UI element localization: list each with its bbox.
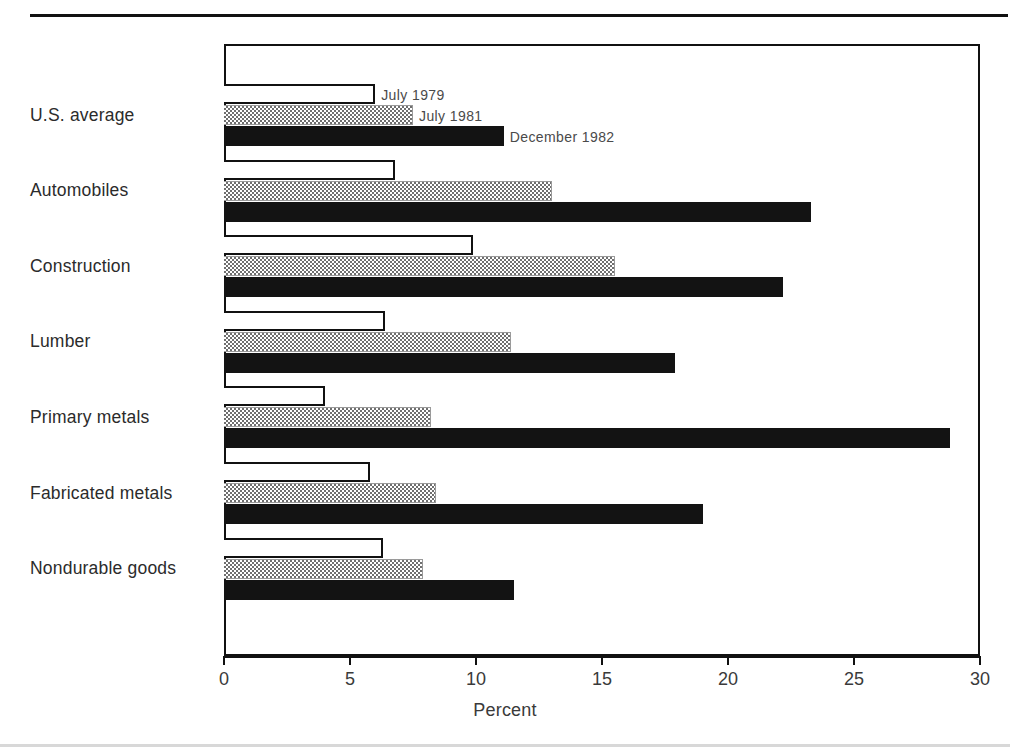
x-tick-label: 20 xyxy=(718,669,738,690)
x-tick xyxy=(979,656,981,665)
bar-2-0 xyxy=(224,235,473,255)
bar-6-1 xyxy=(224,559,423,579)
bar-5-1 xyxy=(224,483,436,503)
bar-1-0 xyxy=(224,160,395,180)
x-tick-label: 25 xyxy=(844,669,864,690)
category-label: Lumber xyxy=(30,331,91,352)
x-tick-label: 30 xyxy=(970,669,990,690)
x-tick xyxy=(349,656,351,665)
bar-0-1 xyxy=(224,105,413,125)
bar-3-0 xyxy=(224,311,385,331)
bar-1-2 xyxy=(224,202,811,222)
category-label: Primary metals xyxy=(30,407,149,428)
x-tick-label: 5 xyxy=(345,669,355,690)
x-tick xyxy=(853,656,855,665)
legend-label-0: July 1979 xyxy=(381,87,445,103)
bar-4-1 xyxy=(224,407,431,427)
bar-4-0 xyxy=(224,386,325,406)
x-tick xyxy=(475,656,477,665)
x-tick-label: 15 xyxy=(592,669,612,690)
legend-label-2: December 1982 xyxy=(510,129,615,145)
bar-3-1 xyxy=(224,332,511,352)
bar-5-2 xyxy=(224,504,703,524)
category-label: Construction xyxy=(30,256,131,277)
bar-2-2 xyxy=(224,277,783,297)
bar-4-2 xyxy=(224,428,950,448)
x-tick xyxy=(601,656,603,665)
bar-1-1 xyxy=(224,181,552,201)
bar-6-0 xyxy=(224,538,383,558)
x-tick xyxy=(223,656,225,665)
x-tick-label: 0 xyxy=(219,669,229,690)
bar-chart: U.S. averageJuly 1979July 1981December 1… xyxy=(0,0,1010,747)
bar-5-0 xyxy=(224,462,370,482)
category-label: Automobiles xyxy=(30,180,129,201)
category-label: Nondurable goods xyxy=(30,558,176,579)
bar-0-2 xyxy=(224,126,504,146)
legend-label-1: July 1981 xyxy=(419,108,483,124)
category-label: U.S. average xyxy=(30,105,135,126)
x-tick-label: 10 xyxy=(466,669,486,690)
bar-2-1 xyxy=(224,256,615,276)
bar-0-0 xyxy=(224,84,375,104)
bar-6-2 xyxy=(224,580,514,600)
x-tick xyxy=(727,656,729,665)
category-label: Fabricated metals xyxy=(30,483,173,504)
x-axis-title: Percent xyxy=(0,700,1010,721)
bar-3-2 xyxy=(224,353,675,373)
